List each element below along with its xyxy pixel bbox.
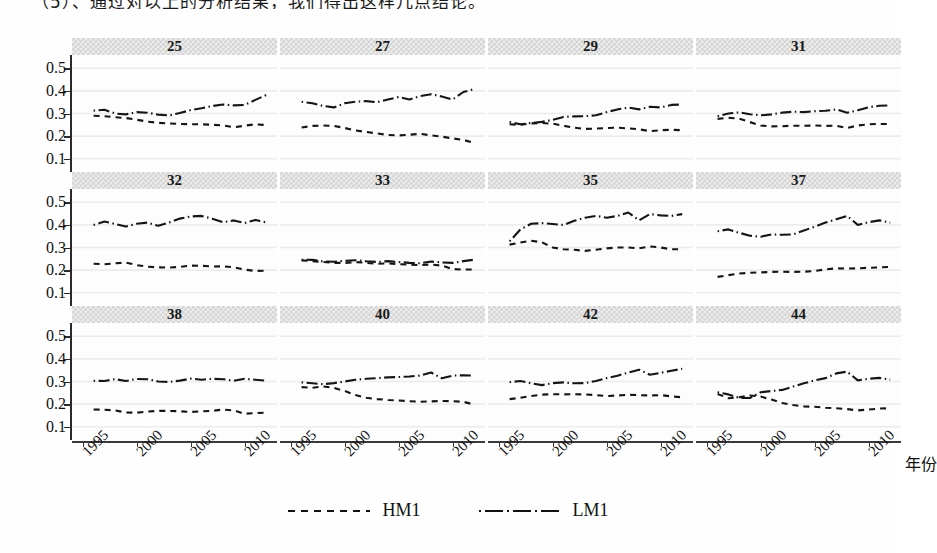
y-tick-label: 0.2 [46,396,66,412]
trellis-panel-37: 37 [696,172,901,306]
panel-plot-area [72,57,277,170]
x-axis-title: 年份 [905,451,937,475]
cut-off-body-text: （5）、通过对以上的分析结果，我们得出这样几点结论。 [32,0,852,9]
panel-strip-label: 27 [280,38,485,55]
trellis-panel-31: 31 [696,38,901,172]
legend-key-dashdot-icon [477,505,563,517]
legend-item-lm1: LM1 [477,500,609,521]
y-tick-label: 0.3 [46,106,66,122]
panel-plot-area [488,191,693,304]
trellis-panel-grid: 252729313233353738404244 [72,38,882,438]
panel-strip-label: 37 [696,172,901,189]
trellis-panel-27: 27 [280,38,485,172]
panel-plot-area [72,191,277,304]
trellis-panel-42: 42 [488,306,693,440]
panel-plot-area [280,191,485,304]
trellis-row: 32333537 [72,172,882,306]
y-tick-label: 0.5 [46,60,66,76]
y-tick-label: 0.5 [46,328,66,344]
panel-strip-label: 33 [280,172,485,189]
y-tick-label: 0.4 [46,351,66,367]
y-tick-label: 0.3 [46,240,66,256]
trellis-panel-40: 40 [280,306,485,440]
trellis-panel-35: 35 [488,172,693,306]
panel-plot-area [280,57,485,170]
y-tick-label: 0.1 [46,419,66,435]
chart-legend: HM1 LM1 [0,500,895,521]
y-tick-label: 0.4 [46,83,66,99]
panel-strip-label: 25 [72,38,277,55]
y-tick-label: 0.5 [46,194,66,210]
trellis-row: 38404244 [72,306,882,440]
panel-strip-label: 32 [72,172,277,189]
trellis-panel-33: 33 [280,172,485,306]
trellis-panel-38: 38 [72,306,277,440]
panel-plot-area [696,57,901,170]
panel-strip-label: 35 [488,172,693,189]
y-tick-label: 0.4 [46,217,66,233]
legend-key-dashed-icon [286,505,372,517]
panel-strip-label: 38 [72,306,277,323]
legend-item-hm1: HM1 [286,500,420,521]
panel-strip-label: 40 [280,306,485,323]
panel-plot-area [696,325,901,438]
panel-plot-area [488,325,693,438]
panel-strip-label: 42 [488,306,693,323]
trellis-row: 25272931 [72,38,882,172]
panel-plot-area [696,191,901,304]
y-tick-label: 0.3 [46,374,66,390]
panel-strip-label: 29 [488,38,693,55]
panel-plot-area [488,57,693,170]
legend-label-hm1: HM1 [382,500,420,521]
trellis-panel-29: 29 [488,38,693,172]
trellis-panel-25: 25 [72,38,277,172]
panel-plot-area [72,325,277,438]
y-tick-label: 0.1 [46,285,66,301]
panel-strip-label: 44 [696,306,901,323]
trellis-panel-32: 32 [72,172,277,306]
legend-label-lm1: LM1 [573,500,609,521]
y-tick-label: 0.2 [46,262,66,278]
y-tick-label: 0.2 [46,128,66,144]
panel-strip-label: 31 [696,38,901,55]
panel-plot-area [280,325,485,438]
trellis-panel-44: 44 [696,306,901,440]
y-tick-label: 0.1 [46,151,66,167]
cut-off-text-clip: （5）、通过对以上的分析结果，我们得出这样几点结论。 [0,0,895,9]
